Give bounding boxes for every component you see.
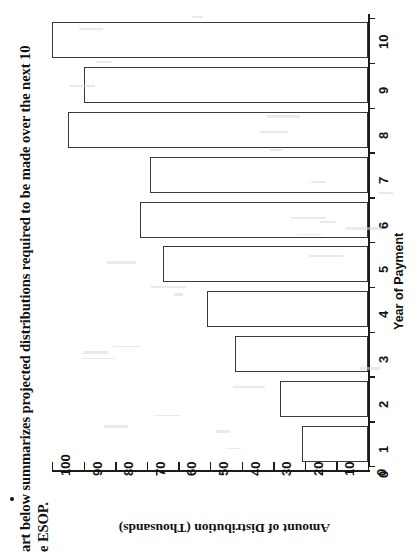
value-tick-100 [52, 462, 53, 471]
scan-artifact [233, 386, 266, 388]
category-tick [368, 108, 375, 109]
value-tick-60 [178, 462, 179, 471]
bar-chart: 123456789100 Year of Payment 10090807060… [0, 0, 416, 558]
value-label-90: 90 [90, 462, 105, 476]
scan-artifact [174, 293, 183, 296]
value-tick-70 [147, 462, 148, 471]
bar-year-1 [302, 426, 368, 462]
scan-artifact [104, 425, 128, 428]
scanned-chart-page: art below summarizes projected distribut… [0, 0, 416, 558]
scan-artifact [83, 351, 108, 353]
value-tick-30 [273, 462, 274, 471]
value-label-60: 60 [184, 462, 199, 476]
scan-artifact [192, 16, 203, 18]
scan-artifact [298, 234, 322, 235]
category-label-4: 4 [376, 311, 391, 318]
bar-year-6 [140, 202, 368, 238]
bar-year-3 [235, 336, 368, 372]
bar-year-8 [68, 112, 368, 148]
value-label-30: 30 [279, 462, 294, 476]
category-label-3: 3 [376, 356, 391, 363]
category-tick [368, 242, 375, 243]
scan-artifact [346, 227, 382, 230]
category-tick [368, 18, 375, 19]
value-tick-20 [305, 462, 306, 471]
scan-artifact [113, 346, 141, 348]
value-tick-0 [368, 462, 369, 471]
value-label-10: 10 [342, 462, 357, 476]
value-label-80: 80 [121, 462, 136, 476]
bar-year-5 [163, 246, 368, 282]
scan-artifact [226, 448, 241, 449]
scan-artifact [260, 131, 288, 133]
category-tick [368, 152, 375, 153]
scan-artifact [267, 115, 299, 118]
category-label-2: 2 [376, 401, 391, 408]
bar-year-7 [150, 157, 368, 193]
scan-artifact [320, 221, 336, 223]
scan-artifact [309, 255, 343, 257]
scan-artifact [79, 28, 102, 31]
value-tick-80 [115, 462, 116, 471]
category-label-10: 10 [376, 35, 391, 49]
scan-artifact [379, 192, 393, 194]
value-tick-40 [242, 462, 243, 471]
scan-artifact [70, 85, 95, 87]
value-label-70: 70 [153, 462, 168, 476]
category-tick [368, 376, 375, 377]
bar-year-4 [207, 291, 368, 327]
category-label-5: 5 [376, 266, 391, 273]
category-tick [368, 287, 375, 288]
scan-artifact [311, 181, 326, 183]
category-label-9: 9 [376, 87, 391, 94]
value-label-20: 20 [311, 462, 326, 476]
scan-artifact [107, 261, 136, 263]
scan-artifact [151, 286, 185, 288]
category-axis-title: Year of Payment [392, 233, 406, 330]
category-tick [368, 197, 375, 198]
category-tick [368, 63, 375, 64]
value-label-100: 100 [58, 454, 73, 476]
scan-artifact [270, 149, 283, 150]
category-label-8: 8 [376, 132, 391, 139]
value-tick-50 [210, 462, 211, 471]
category-tick [368, 332, 375, 333]
bar-year-9 [84, 67, 368, 103]
scan-artifact [216, 430, 230, 432]
scan-artifact [82, 358, 115, 359]
value-label-0: 0 [374, 469, 389, 476]
value-label-40: 40 [248, 462, 263, 476]
value-label-50: 50 [216, 462, 231, 476]
scan-artifact [360, 367, 380, 370]
scan-artifact [154, 415, 180, 416]
scan-artifact [96, 61, 112, 63]
value-tick-10 [336, 462, 337, 471]
value-axis-title: Amount of Distribution (Thousands) [119, 520, 330, 536]
bar-year-2 [280, 381, 368, 417]
value-tick-90 [84, 462, 85, 471]
category-axis-line [368, 14, 370, 466]
category-label-1: 1 [376, 445, 391, 452]
category-tick [368, 421, 375, 422]
scan-artifact [291, 217, 326, 219]
category-label-7: 7 [376, 177, 391, 184]
